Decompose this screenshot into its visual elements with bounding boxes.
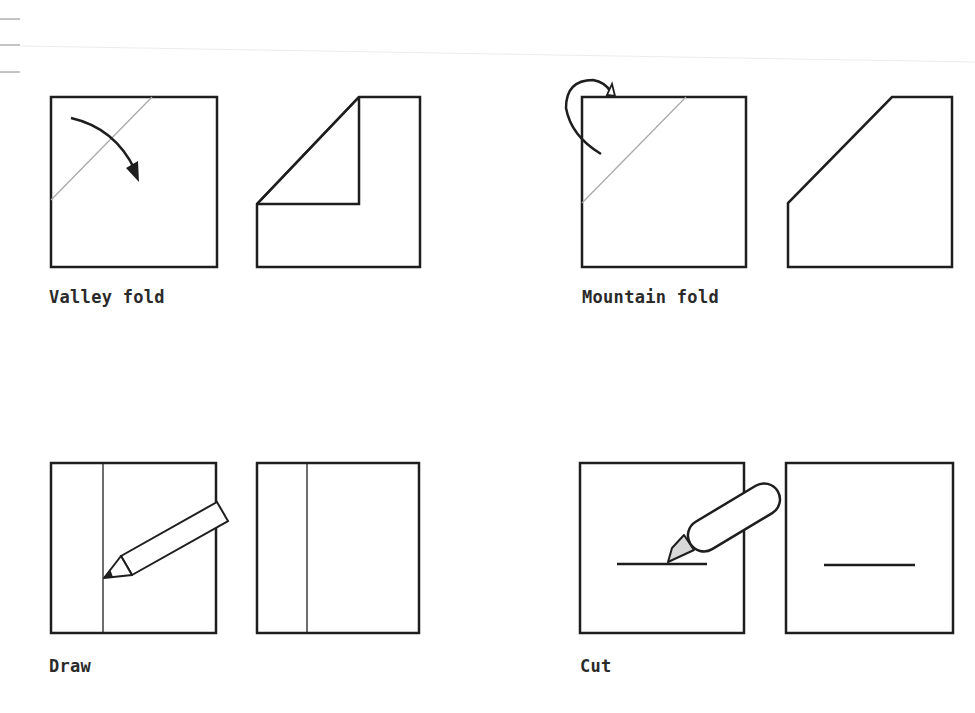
draw-label: Draw	[49, 656, 91, 676]
margin-marks	[0, 19, 20, 72]
draw-after	[257, 463, 419, 633]
cut-before	[580, 463, 786, 633]
diagram-svg	[0, 0, 975, 713]
cut-label: Cut	[580, 656, 612, 676]
cut-after	[786, 463, 953, 633]
mountain-fold-after	[788, 97, 952, 267]
origami-symbols-diagram: Valley fold Mountain fold Draw Cut	[0, 0, 975, 713]
valley-fold-before	[51, 97, 217, 267]
mountain-fold-before	[566, 80, 746, 267]
valley-fold-label: Valley fold	[49, 287, 165, 307]
faint-scan-line	[20, 46, 975, 62]
draw-before	[51, 463, 228, 633]
valley-fold-after	[257, 97, 420, 267]
mountain-fold-label: Mountain fold	[582, 287, 719, 307]
